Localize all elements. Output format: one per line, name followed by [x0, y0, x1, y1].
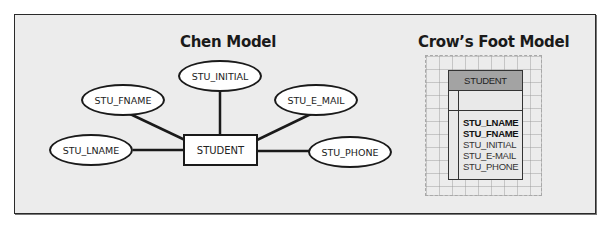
primary-key-section: [449, 91, 522, 111]
attribute-list: STU_LNAME STU_FNAME STU_INITIAL STU_E-MA…: [463, 117, 518, 172]
attribute-item: STU_FNAME: [463, 128, 518, 139]
chen-entity-student: STUDENT: [183, 134, 258, 166]
attribute-stu-email: STU_E_MAIL: [274, 84, 358, 116]
attribute-label: STU_LNAME: [63, 145, 120, 156]
entity-label: STUDENT: [197, 145, 244, 156]
attribute-label: STU_PHONE: [322, 147, 379, 158]
attribute-item: STU_LNAME: [463, 117, 518, 128]
key-column-divider: [458, 111, 459, 179]
attribute-label: STU_FNAME: [95, 95, 152, 106]
attribute-label: STU_E_MAIL: [287, 95, 344, 106]
attribute-item: STU_E-MAIL: [463, 150, 518, 161]
attribute-stu-lname: STU_LNAME: [49, 134, 133, 166]
attributes-section: STU_LNAME STU_FNAME STU_INITIAL STU_E-MA…: [449, 111, 522, 179]
attribute-stu-initial: STU_INITIAL: [178, 60, 262, 92]
entity-header: STUDENT: [449, 71, 522, 91]
key-column-divider: [458, 91, 459, 110]
attribute-item: STU_PHONE: [463, 161, 518, 172]
crowsfoot-entity-student: STUDENT STU_LNAME STU_FNAME STU_INITIAL …: [448, 70, 523, 180]
attribute-label: STU_INITIAL: [192, 71, 249, 82]
entity-name: STUDENT: [464, 75, 507, 86]
crowsfoot-model-title: Crow’s Foot Model: [418, 33, 569, 51]
attribute-stu-phone: STU_PHONE: [308, 136, 392, 168]
attribute-item: STU_INITIAL: [463, 139, 518, 150]
attribute-stu-fname: STU_FNAME: [81, 84, 165, 116]
